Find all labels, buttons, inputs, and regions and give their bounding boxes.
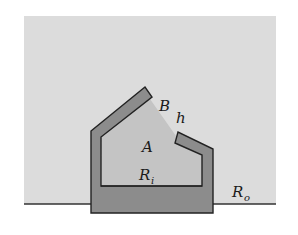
svg-text:R: R: [231, 183, 243, 201]
svg-text:o: o: [244, 192, 250, 203]
svg-text:R: R: [138, 166, 150, 184]
label-b: B: [158, 97, 170, 115]
label-h: h: [176, 109, 186, 127]
label-a: A: [140, 138, 153, 156]
svg-text:i: i: [151, 175, 154, 186]
diagram-canvas: B h A R i R o: [0, 0, 298, 235]
